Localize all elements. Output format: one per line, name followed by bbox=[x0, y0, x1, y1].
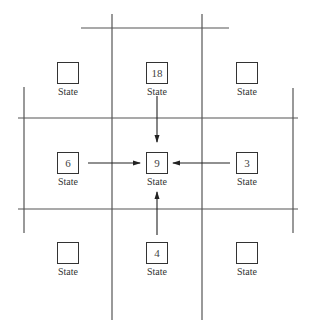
state-label: State bbox=[217, 176, 277, 188]
state-cell-ne: State bbox=[217, 62, 277, 98]
state-cell-s: 4 State bbox=[127, 242, 187, 278]
state-box: 18 bbox=[146, 62, 168, 84]
state-box: 4 bbox=[146, 242, 168, 264]
state-label: State bbox=[217, 266, 277, 278]
state-box bbox=[236, 242, 258, 264]
state-cell-center: 9 State bbox=[127, 152, 187, 188]
state-cell-n: 18 State bbox=[127, 62, 187, 98]
state-box: 3 bbox=[236, 152, 258, 174]
state-label: State bbox=[127, 266, 187, 278]
state-cell-se: State bbox=[217, 242, 277, 278]
state-cell-nw: State bbox=[38, 62, 98, 98]
state-label: State bbox=[127, 86, 187, 98]
state-label: State bbox=[217, 86, 277, 98]
state-box: 6 bbox=[57, 152, 79, 174]
state-label: State bbox=[38, 176, 98, 188]
state-box bbox=[236, 62, 258, 84]
state-box bbox=[57, 62, 79, 84]
state-cell-w: 6 State bbox=[38, 152, 98, 188]
state-label: State bbox=[127, 176, 187, 188]
state-label: State bbox=[38, 86, 98, 98]
state-box: 9 bbox=[146, 152, 168, 174]
state-cell-sw: State bbox=[38, 242, 98, 278]
state-cell-e: 3 State bbox=[217, 152, 277, 188]
state-box bbox=[57, 242, 79, 264]
state-label: State bbox=[38, 266, 98, 278]
